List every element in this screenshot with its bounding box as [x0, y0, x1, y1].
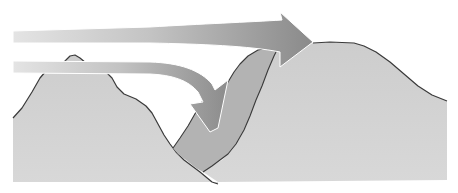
diagram-canvas: [0, 0, 458, 193]
mountain-airflow-diagram: [0, 0, 458, 193]
